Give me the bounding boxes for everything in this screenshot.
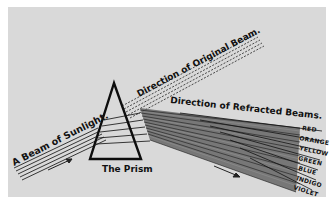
label-prism: The Prism xyxy=(102,164,153,174)
sunlight-arrow-icon xyxy=(48,159,72,170)
refracted-spectrum-fan xyxy=(140,108,322,192)
spectrum-label-red: RED xyxy=(302,124,317,133)
prism-diagram: A Beam of Sunlight. Direction of Origina… xyxy=(0,0,332,212)
label-original-direction: Direction of Original Beam. xyxy=(135,25,262,99)
